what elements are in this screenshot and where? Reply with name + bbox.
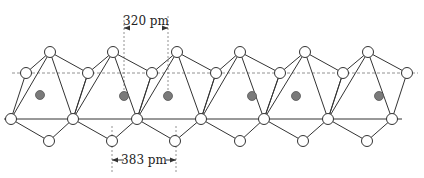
metal-atom-icon — [248, 92, 257, 101]
bond-line — [11, 52, 50, 119]
metal-atom-icon — [36, 91, 45, 100]
bond-line — [137, 52, 177, 119]
bond-line — [50, 52, 73, 119]
ligand-atom-icon — [211, 68, 222, 79]
ligand-atom-icon — [235, 136, 246, 147]
bond-line — [73, 119, 112, 141]
ligand-atom-icon — [387, 114, 398, 125]
bond-line — [264, 119, 303, 141]
bond-line — [368, 52, 407, 73]
ligand-atom-icon — [21, 68, 32, 79]
ligand-atom-icon — [6, 114, 17, 125]
bond-line — [201, 119, 240, 141]
bond-line — [113, 52, 152, 73]
ligand-atom-icon — [44, 136, 55, 147]
arrowhead-right-icon — [170, 158, 176, 163]
distance-label-383: 383 pm — [121, 153, 167, 167]
ligand-atom-icon — [45, 47, 56, 58]
ligand-atom-icon — [363, 47, 374, 58]
metal-atom-icon — [292, 92, 301, 101]
ligand-atom-icon — [235, 47, 246, 58]
bond-line — [240, 52, 264, 119]
octahedral-chain-diagram: 320 pm 383 pm — [0, 0, 424, 178]
metal-atom-icon — [120, 92, 129, 101]
ligand-atom-icon — [107, 136, 118, 147]
ligand-atom-icon — [323, 114, 334, 125]
bond-line — [392, 73, 407, 119]
bond-line — [328, 52, 368, 119]
ligand-atom-icon — [300, 47, 311, 58]
ligand-atom-icon — [83, 68, 94, 79]
bond-edges — [4, 52, 407, 141]
bond-line — [328, 119, 367, 141]
bond-line — [113, 52, 137, 119]
ligand-atom-icon — [402, 68, 413, 79]
bond-line — [368, 52, 392, 119]
ligand-atom-icon — [362, 136, 373, 147]
bond-line — [201, 52, 240, 119]
bond-line — [305, 52, 328, 119]
ligand-atom-icon — [338, 68, 349, 79]
bond-line — [73, 52, 113, 119]
ligand-atom-icon — [147, 68, 158, 79]
arrowhead-left-icon — [112, 158, 118, 163]
bond-line — [177, 52, 201, 119]
metal-atom-icon — [164, 92, 173, 101]
bond-line — [73, 73, 88, 119]
bond-line — [137, 119, 175, 141]
distance-label-320: 320 pm — [123, 14, 169, 28]
ligand-atom-icon — [298, 136, 309, 147]
ligand-atom-icon — [275, 68, 286, 79]
bond-line — [328, 73, 343, 119]
ligand-atom-icon — [132, 114, 143, 125]
ligand-atom-icon — [170, 136, 181, 147]
ligand-atom-icon — [108, 47, 119, 58]
bond-line — [201, 73, 216, 119]
bond-line — [177, 52, 216, 73]
ligand-atom-icon — [68, 114, 79, 125]
ligand-atom-icon — [196, 114, 207, 125]
bond-line — [264, 52, 305, 119]
ligand-atom-icon — [259, 114, 270, 125]
ligand-atom-icon — [172, 47, 183, 58]
bond-line — [11, 73, 26, 119]
metal-atom-icon — [375, 92, 384, 101]
bond-line — [137, 73, 152, 119]
bond-line — [11, 119, 49, 141]
